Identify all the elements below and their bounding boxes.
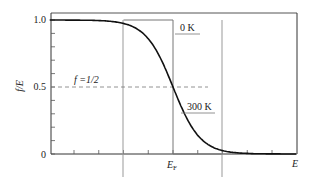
fermi-energy-label: EF — [166, 159, 177, 172]
fermi-dirac-chart: 1.0 0.5 0 f/E f =1/2 0 K 300 K EF E — [0, 0, 315, 183]
y-tick-label-05: 0.5 — [34, 81, 47, 92]
y-tick-label-0: 0 — [41, 149, 46, 160]
x-axis-label: E — [291, 158, 298, 169]
half-label: f =1/2 — [74, 74, 99, 85]
y-tick-label-1: 1.0 — [34, 14, 47, 25]
fermi-energy-main: E — [166, 159, 173, 170]
room-k-label: 300 K — [187, 101, 213, 112]
fermi-energy-sub: F — [173, 164, 177, 172]
y-axis-label: f/E — [14, 80, 25, 92]
zero-k-label: 0 K — [180, 22, 196, 33]
